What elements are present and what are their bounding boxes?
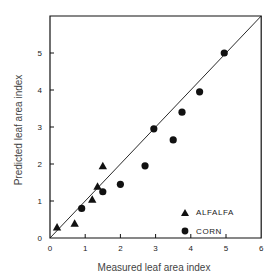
corn-point: [150, 125, 157, 132]
x-tick-label: 5: [224, 244, 229, 253]
alfalfa-point: [70, 219, 78, 227]
x-tick-label: 0: [48, 244, 53, 253]
corn-point: [78, 205, 85, 212]
alfalfa-point: [53, 223, 61, 231]
legend: ALFALFA CORN: [181, 208, 234, 236]
y-tick-label: 2: [38, 160, 43, 169]
corn-point: [178, 109, 185, 116]
axis-ticks: 0123456012345: [38, 49, 264, 253]
legend-triangle-icon: [181, 209, 189, 216]
x-axis-label: Measured leaf area index: [98, 262, 211, 273]
y-tick-label: 4: [38, 86, 43, 95]
y-tick-label: 1: [38, 197, 43, 206]
alfalfa-point: [93, 182, 101, 190]
corn-point: [117, 181, 124, 188]
y-tick-label: 3: [38, 123, 43, 132]
scatter-chart: 0123456012345 ALFALFA CORN Measured leaf…: [0, 0, 275, 278]
data-points: [53, 49, 228, 230]
alfalfa-point: [99, 162, 107, 170]
legend-label-corn: CORN: [196, 227, 222, 236]
x-tick-label: 3: [153, 244, 158, 253]
x-tick-label: 1: [83, 244, 88, 253]
corn-point: [196, 88, 203, 95]
legend-circle-icon: [182, 228, 189, 235]
corn-point: [221, 49, 228, 56]
x-tick-label: 2: [118, 244, 123, 253]
y-tick-label: 0: [38, 234, 43, 243]
y-axis-label: Predicted leaf area index: [13, 75, 24, 186]
y-tick-label: 5: [38, 49, 43, 58]
corn-point: [99, 188, 106, 195]
legend-label-alfalfa: ALFALFA: [196, 208, 234, 217]
corn-point: [141, 162, 148, 169]
x-tick-label: 4: [189, 244, 194, 253]
x-tick-label: 6: [259, 244, 264, 253]
corn-point: [170, 136, 177, 143]
